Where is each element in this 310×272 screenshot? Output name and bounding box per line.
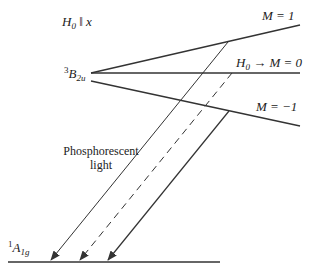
transition-arrow-m-minus-1 bbox=[108, 111, 229, 260]
emission-label: Phosphorescent light bbox=[56, 144, 146, 172]
energy-level-diagram: H0 ‖ x 3B2u M = 1 H0 → M = 0 M = −1 Phos… bbox=[0, 0, 310, 272]
excited-state-label: 3B2u bbox=[64, 66, 85, 83]
diagram-lines bbox=[0, 0, 310, 272]
level-label-m-plus-1: M = 1 bbox=[262, 9, 295, 22]
field-direction-label: H0 ‖ x bbox=[62, 15, 92, 31]
level-label-m-0: H0 → M = 0 bbox=[236, 56, 302, 72]
ground-state-label: 1A1g bbox=[8, 240, 29, 257]
level-label-m-minus-1: M = −1 bbox=[256, 100, 297, 113]
